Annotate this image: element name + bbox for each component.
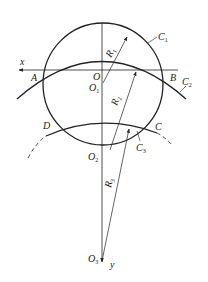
radius-r3-label: R3	[102, 177, 116, 189]
curve-c2-label: C2	[182, 76, 192, 88]
point-o3-label: O3	[88, 253, 98, 265]
point-c-label: C	[155, 121, 162, 132]
point-b-label: B	[170, 72, 176, 83]
point-d-label: D	[42, 120, 51, 131]
radius-r2-label: R2	[108, 94, 123, 107]
x-axis-label: x	[19, 56, 25, 67]
y-axis-label: y	[109, 259, 115, 270]
radius-r1	[103, 37, 127, 83]
geometry-diagram: x y A B C D O O1 O2 O3 C1 C2 C3 R1 R2 R3	[0, 0, 208, 282]
point-o1-label: O1	[89, 82, 99, 94]
point-o-label: O	[93, 71, 100, 82]
circle-c1	[43, 23, 163, 145]
curve-c1-label: C1	[158, 31, 168, 43]
radius-r2	[110, 72, 136, 150]
radius-r3	[102, 129, 129, 261]
point-o2-label: O2	[88, 151, 98, 163]
curve-c3-label: C3	[136, 142, 146, 154]
point-a-label: A	[30, 72, 38, 83]
arc-dc-dashed-right	[157, 133, 173, 146]
arc-dc	[46, 123, 157, 136]
arc-dc-dashed-left	[28, 136, 46, 158]
leader-c1	[148, 37, 157, 43]
